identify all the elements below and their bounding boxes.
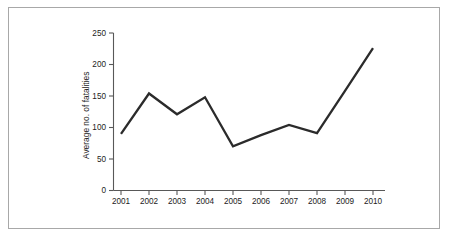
x-tick-label-2002: 2002 [140,197,159,206]
y-tick-label-100: 100 [92,123,106,132]
y-axis-label: Average no. of fatalities [81,72,91,159]
x-tick-label-2004: 2004 [196,197,215,206]
x-tick-label-2008: 2008 [308,197,327,206]
y-tick-label-150: 150 [92,92,106,101]
y-axis-ticks [109,33,114,191]
chart-svg: Average no. of fatalities 0 50 100 150 [0,0,449,237]
x-axis-tick-labels: 2001 2002 2003 2004 2005 2006 2007 2008 … [112,197,383,206]
x-tick-label-2003: 2003 [168,197,187,206]
x-tick-label-2005: 2005 [224,197,243,206]
y-axis-tick-labels: 0 50 100 150 200 250 [92,29,106,196]
x-tick-label-2007: 2007 [280,197,299,206]
y-tick-label-0: 0 [101,186,106,195]
data-series-line [121,48,373,146]
x-tick-label-2001: 2001 [112,197,131,206]
x-axis-ticks [121,191,373,196]
y-tick-label-200: 200 [92,60,106,69]
y-tick-label-250: 250 [92,29,106,38]
y-tick-label-50: 50 [97,155,107,164]
x-tick-label-2009: 2009 [336,197,355,206]
figure-root: Average no. of fatalities 0 50 100 150 [0,0,449,237]
x-tick-label-2010: 2010 [364,197,383,206]
line-chart: Average no. of fatalities 0 50 100 150 [0,0,449,237]
x-tick-label-2006: 2006 [252,197,271,206]
